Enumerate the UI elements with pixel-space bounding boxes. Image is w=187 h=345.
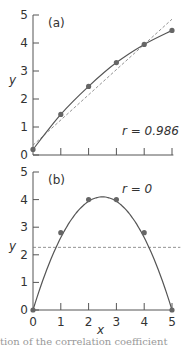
data-point bbox=[169, 28, 174, 33]
fit-curve bbox=[33, 197, 172, 310]
y-tick-label: 2 bbox=[20, 248, 28, 262]
y-tick-label: 1 bbox=[20, 120, 28, 134]
data-point bbox=[169, 307, 174, 312]
data-point bbox=[30, 147, 35, 152]
data-point bbox=[30, 307, 35, 312]
data-point bbox=[114, 60, 119, 65]
y-tick-label: 5 bbox=[20, 165, 28, 179]
y-tick-label: 2 bbox=[20, 92, 28, 106]
y-tick-label: 3 bbox=[20, 220, 28, 234]
x-tick-label: 3 bbox=[113, 315, 121, 329]
data-point bbox=[142, 42, 147, 47]
panel-label-b: (b) bbox=[48, 173, 65, 187]
figure: 012345 012345012345 (a) r = 0.986 y (b) … bbox=[0, 0, 187, 345]
x-tick-label: 5 bbox=[168, 315, 176, 329]
data-point bbox=[142, 230, 147, 235]
r-annotation-a: r = 0.986 bbox=[122, 124, 179, 138]
data-point bbox=[58, 230, 63, 235]
panel-label-a: (a) bbox=[48, 16, 65, 30]
y-tick-label: 5 bbox=[20, 8, 28, 22]
chart-a: 012345 bbox=[20, 8, 174, 162]
y-axis-label-a: y bbox=[8, 73, 17, 87]
chart-b: 012345012345 bbox=[20, 165, 180, 329]
y-tick-label: 0 bbox=[20, 303, 28, 317]
data-point bbox=[58, 112, 63, 117]
data-point bbox=[86, 197, 91, 202]
x-tick-label: 4 bbox=[140, 315, 148, 329]
data-point bbox=[114, 197, 119, 202]
y-tick-label: 4 bbox=[20, 193, 28, 207]
y-tick-label: 3 bbox=[20, 64, 28, 78]
y-axis-label-b: y bbox=[8, 239, 17, 253]
x-tick-label: 1 bbox=[57, 315, 65, 329]
x-tick-label: 0 bbox=[29, 315, 37, 329]
data-point bbox=[86, 84, 91, 89]
caption-fragment: tion of the correlation coefficient bbox=[0, 336, 187, 345]
x-axis-label-b: x bbox=[96, 323, 105, 337]
x-tick-label: 2 bbox=[85, 315, 93, 329]
y-tick-label: 4 bbox=[20, 36, 28, 50]
y-tick-label: 1 bbox=[20, 275, 28, 289]
y-tick-label: 0 bbox=[20, 148, 28, 162]
r-annotation-b: r = 0 bbox=[122, 182, 153, 196]
